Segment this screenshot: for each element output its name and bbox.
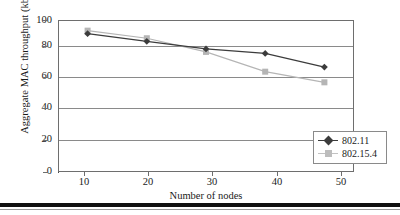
- data-point: [321, 79, 327, 85]
- legend-marker-square-icon: [317, 148, 339, 159]
- y-tick-20: [43, 140, 48, 141]
- legend-item-802-11[interactable]: 802.11: [317, 134, 383, 147]
- legend-item-802-15-4[interactable]: 802.15.4: [317, 147, 383, 160]
- series-markers-802-11: [84, 30, 328, 70]
- x-tick-label-40: 40: [257, 176, 297, 187]
- x-tick-label-10: 10: [64, 176, 104, 187]
- figure-container: Aggregate MAC throughput (kbps) 100 80 6…: [0, 0, 400, 215]
- y-tick-80: [43, 46, 48, 47]
- y-tick-100: [43, 20, 48, 21]
- x-tick-label-50: 50: [321, 176, 361, 187]
- chart-legend: 802.11 802.15.4: [313, 131, 387, 164]
- x-axis-title: Number of nodes: [58, 190, 354, 201]
- series-plot-layer: [58, 20, 354, 172]
- page-rule-thin: [0, 209, 400, 210]
- page-rule: [0, 203, 400, 207]
- data-point: [262, 69, 268, 75]
- x-tick-label-30: 30: [192, 176, 232, 187]
- legend-marker-diamond-icon: [317, 135, 339, 146]
- legend-label-802-11: 802.11: [339, 135, 369, 146]
- data-point: [321, 64, 328, 71]
- data-point: [262, 50, 269, 57]
- y-tick-0: [43, 172, 48, 173]
- x-tick-label-20: 20: [128, 176, 168, 187]
- legend-label-802-15-4: 802.15.4: [339, 148, 377, 159]
- y-tick-60: [43, 77, 48, 78]
- y-tick-40: [43, 108, 48, 109]
